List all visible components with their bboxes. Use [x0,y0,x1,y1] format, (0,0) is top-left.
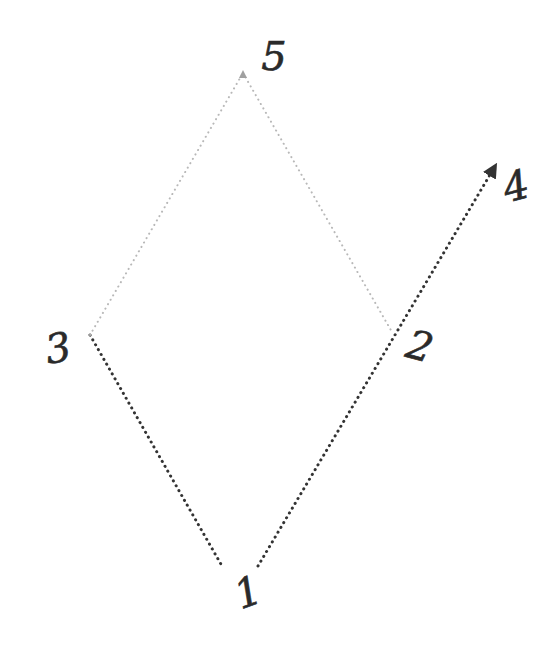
segments-layer [90,73,494,566]
segment-5-to-2 [243,73,392,332]
apex-marker-icon [239,70,247,78]
diagram-canvas: 12345 [0,0,557,648]
triangle-marker-icon [239,70,247,78]
segment-3-to-1 [90,335,222,566]
point-label-4: 4 [497,160,534,211]
point-label-3: 3 [41,323,74,373]
segment-1-to-4 [258,168,494,566]
point-label-2: 2 [401,320,438,371]
point-label-5: 5 [261,33,286,79]
labels-layer: 12345 [41,33,534,618]
point-label-1: 1 [228,566,268,618]
segment-3-to-5 [90,73,243,335]
